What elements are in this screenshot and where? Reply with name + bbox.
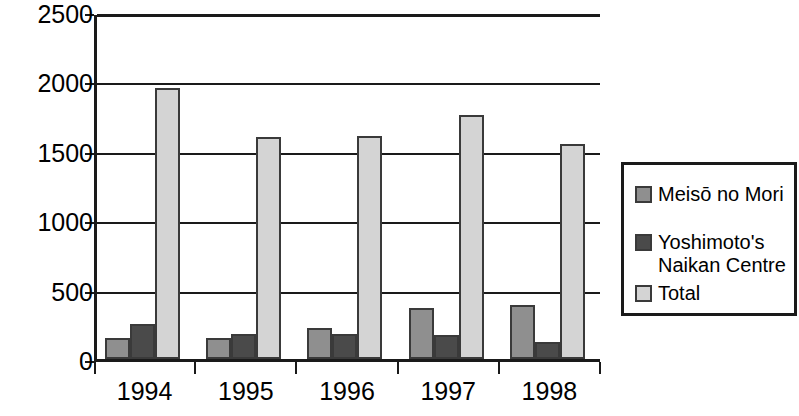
legend-item-1[interactable]: Yoshimoto's Naikan Centre bbox=[635, 231, 786, 277]
bar-1995-series-2 bbox=[256, 137, 281, 359]
chart-legend: Meisō no MoriYoshimoto's Naikan CentreTo… bbox=[621, 162, 797, 316]
legend-item-0[interactable]: Meisō no Mori bbox=[635, 183, 784, 206]
bar-1994-series-0 bbox=[105, 338, 130, 359]
y-tick-label: 1500 bbox=[7, 141, 93, 166]
x-tick-label-1994: 1994 bbox=[90, 377, 200, 405]
x-tick-mark bbox=[498, 362, 500, 374]
legend-item-2[interactable]: Total bbox=[635, 282, 700, 305]
bar-1994-series-1 bbox=[130, 324, 155, 359]
x-tick-mark bbox=[295, 362, 297, 374]
bar-1998-series-1 bbox=[535, 342, 560, 359]
legend-swatch-icon bbox=[635, 234, 652, 251]
chart-root: 05001000150020002500 1994199519961997199… bbox=[0, 0, 799, 416]
bar-1997-series-2 bbox=[459, 115, 484, 359]
x-tick-mark-origin bbox=[94, 362, 96, 374]
bar-group-1994 bbox=[105, 15, 180, 359]
bar-1995-series-1 bbox=[231, 334, 256, 359]
x-tick-mark bbox=[397, 362, 399, 374]
bar-1996-series-1 bbox=[332, 334, 357, 359]
legend-label: Total bbox=[658, 282, 700, 305]
legend-label: Yoshimoto's Naikan Centre bbox=[658, 231, 786, 277]
bar-1996-series-0 bbox=[307, 328, 332, 359]
bar-1998-series-2 bbox=[560, 144, 585, 359]
x-tick-mark bbox=[599, 362, 601, 374]
x-tick-mark bbox=[194, 362, 196, 374]
bar-1995-series-0 bbox=[206, 338, 231, 359]
bar-group-1996 bbox=[307, 15, 382, 359]
bar-1998-series-0 bbox=[510, 305, 535, 359]
plot-inner bbox=[97, 15, 600, 359]
bar-group-1998 bbox=[510, 15, 585, 359]
x-tick-label-1995: 1995 bbox=[191, 377, 301, 405]
y-tick-label: 2500 bbox=[7, 2, 93, 27]
legend-swatch-icon bbox=[635, 285, 652, 302]
x-tick-label-1998: 1998 bbox=[494, 377, 604, 405]
bar-1997-series-1 bbox=[434, 335, 459, 359]
bar-1996-series-2 bbox=[357, 136, 382, 359]
legend-swatch-icon bbox=[635, 186, 652, 203]
bar-1994-series-2 bbox=[155, 88, 180, 359]
y-tick-label: 0 bbox=[7, 349, 93, 374]
legend-label: Meisō no Mori bbox=[658, 183, 784, 206]
bar-group-1995 bbox=[206, 15, 281, 359]
y-tick-label: 1000 bbox=[7, 210, 93, 235]
y-tick-label: 2000 bbox=[7, 71, 93, 96]
bar-1997-series-0 bbox=[409, 308, 434, 359]
x-tick-label-1996: 1996 bbox=[292, 377, 402, 405]
x-tick-label-1997: 1997 bbox=[393, 377, 503, 405]
bar-group-1997 bbox=[409, 15, 484, 359]
y-tick-label: 500 bbox=[7, 280, 93, 305]
plot-area bbox=[94, 15, 600, 362]
